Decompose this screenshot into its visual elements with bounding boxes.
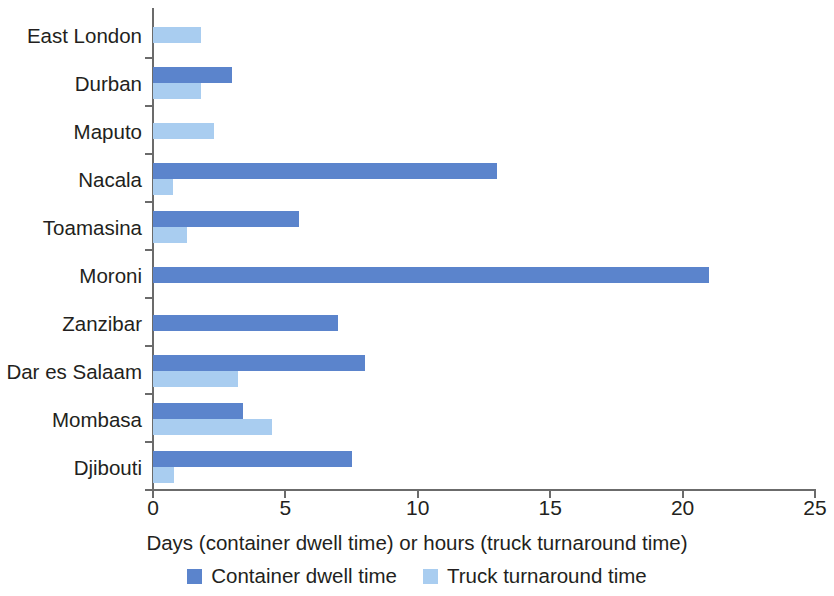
y-axis-tick xyxy=(145,153,153,155)
y-axis-tick xyxy=(145,441,153,443)
y-axis-category-labels: East LondonDurbanMaputoNacalaToamasinaMo… xyxy=(0,10,142,490)
bar-truck-turnaround-time xyxy=(153,83,201,99)
plot-area: 0510152025 xyxy=(153,10,815,490)
bar-container-dwell-time xyxy=(153,267,709,283)
y-axis-category-label: Durban xyxy=(75,74,142,95)
x-axis-tick-label: 20 xyxy=(671,496,694,520)
x-axis-tick-label: 5 xyxy=(280,496,292,520)
bar-truck-turnaround-time xyxy=(153,179,173,195)
legend-swatch-icon xyxy=(423,569,438,584)
chart-legend: Container dwell timeTruck turnaround tim… xyxy=(0,566,834,587)
legend-item: Truck turnaround time xyxy=(423,566,647,587)
bar-truck-turnaround-time xyxy=(153,227,187,243)
legend-swatch-icon xyxy=(187,569,202,584)
y-axis-category-label: Djibouti xyxy=(74,458,142,479)
x-axis-tick-label: 0 xyxy=(147,496,159,520)
y-axis-tick xyxy=(145,249,153,251)
y-axis-category-label: Maputo xyxy=(74,122,142,143)
bar-container-dwell-time xyxy=(153,211,299,227)
x-axis-tick-label: 10 xyxy=(406,496,429,520)
legend-label: Truck turnaround time xyxy=(447,566,647,587)
y-axis-category-label: Nacala xyxy=(78,170,142,191)
y-axis-category-label: Toamasina xyxy=(43,218,142,239)
bar-truck-turnaround-time xyxy=(153,371,238,387)
bar-container-dwell-time xyxy=(153,315,338,331)
y-axis-tick xyxy=(145,105,153,107)
legend-label: Container dwell time xyxy=(211,566,397,587)
y-axis-tick xyxy=(145,393,153,395)
bar-truck-turnaround-time xyxy=(153,27,201,43)
y-axis-tick xyxy=(145,297,153,299)
x-axis-tick-label: 15 xyxy=(539,496,562,520)
y-axis-category-label: East London xyxy=(27,26,142,47)
y-axis-category-label: Zanzibar xyxy=(62,314,142,335)
y-axis-tick xyxy=(145,57,153,59)
y-axis-tick xyxy=(145,345,153,347)
legend-item: Container dwell time xyxy=(187,566,397,587)
y-axis-tick xyxy=(145,201,153,203)
x-axis-title: Days (container dwell time) or hours (tr… xyxy=(0,531,834,555)
y-axis-category-label: Moroni xyxy=(79,266,142,287)
bar-container-dwell-time xyxy=(153,355,365,371)
bar-truck-turnaround-time xyxy=(153,123,214,139)
bar-container-dwell-time xyxy=(153,451,352,467)
bar-container-dwell-time xyxy=(153,163,497,179)
y-axis-category-label: Dar es Salaam xyxy=(6,362,142,383)
bar-truck-turnaround-time xyxy=(153,467,174,483)
bar-container-dwell-time xyxy=(153,403,243,419)
x-axis-tick-label: 25 xyxy=(803,496,826,520)
bar-chart: East LondonDurbanMaputoNacalaToamasinaMo… xyxy=(0,0,834,596)
y-axis-category-label: Mombasa xyxy=(52,410,142,431)
bar-truck-turnaround-time xyxy=(153,419,272,435)
bar-container-dwell-time xyxy=(153,67,232,83)
